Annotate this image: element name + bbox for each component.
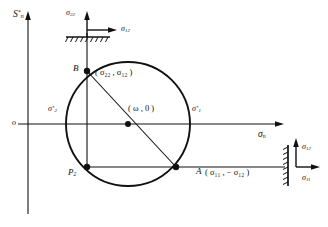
sigma1-star-sub: 1 <box>198 108 200 113</box>
sigma1-star-label: σ*1 <box>192 105 201 114</box>
point-coords-A: ( σ₁₁ , − σ₁₂ ) <box>205 168 249 177</box>
sigma12-top-sub: 12 <box>125 28 130 33</box>
sigma22-arrowhead <box>84 11 90 20</box>
horizontal-axis-label-sub: n <box>263 133 266 139</box>
point-label-A: A <box>196 167 202 176</box>
horizontal-axis-arrowhead <box>275 121 284 127</box>
point-marker-A <box>173 164 179 170</box>
sigma12-top-label: σ12 <box>121 25 130 34</box>
horizontal-axis-label: σn <box>258 130 266 140</box>
sigma2-star-sub: 2 <box>54 108 56 113</box>
point-marker-B <box>84 68 90 74</box>
point-label-B: B <box>73 64 79 73</box>
sigma2-star-label: σ*2 <box>48 105 57 114</box>
point-marker-P2 <box>84 164 90 170</box>
vertical-axis-label: S*n <box>13 10 24 20</box>
center-coords: ( ω , 0 ) <box>128 104 154 113</box>
origin-label: o <box>12 119 16 127</box>
sigma12-right-label: σ12 <box>302 143 311 152</box>
diameter-line-AB <box>87 71 176 167</box>
sigma11-arrowhead <box>311 164 320 170</box>
point-label-P2-sub: 2 <box>74 171 77 177</box>
sigma12-top-arrowhead <box>108 27 117 33</box>
mohr-circle-figure: S*n o σn σ*2 σ*1 B ( σ₂₂ , σ₁₂ ) ( ω , 0… <box>0 0 328 227</box>
point-marker-center <box>125 121 131 127</box>
sigma22-sub: 22 <box>70 12 75 17</box>
sigma11-label: σ11 <box>302 174 311 183</box>
point-label-P2: P2 <box>68 168 76 178</box>
sigma12-right-sub: 12 <box>306 146 311 151</box>
vertical-axis-label-sub: n <box>21 13 24 19</box>
sigma11-sub: 11 <box>306 177 311 182</box>
vertical-axis-arrowhead <box>25 11 31 20</box>
sigma12-right-arrowhead <box>293 138 299 147</box>
point-coords-B: ( σ₂₂ , σ₁₂ ) <box>95 68 132 77</box>
sigma22-label: σ22 <box>66 9 75 18</box>
